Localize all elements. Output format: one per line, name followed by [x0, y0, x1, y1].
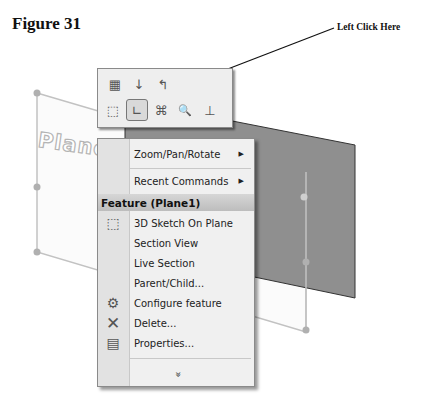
submenu-arrow-icon: ▶: [239, 177, 244, 185]
3d-sketch-icon: ⬚: [103, 213, 123, 233]
sketch-icon: ∟: [132, 103, 143, 118]
menu-item-label: Section View: [134, 238, 198, 249]
menu-item-label: Zoom/Pan/Rotate: [134, 149, 220, 160]
menu-item-section-view[interactable]: Section View: [98, 232, 254, 254]
submenu-arrow-icon: ▶: [239, 150, 244, 158]
menu-item-recent-commands[interactable]: Recent Commands ▶: [98, 170, 254, 192]
expand-menu-chevron-icon[interactable]: »: [173, 369, 184, 381]
menu-item-live-section[interactable]: Live Section: [98, 252, 254, 274]
select-other-icon[interactable]: ⬚: [104, 101, 122, 119]
normal-to-icon[interactable]: ⌘: [152, 101, 170, 119]
rollback-icon[interactable]: ↓: [130, 75, 148, 93]
menu-item-parent-child[interactable]: Parent/Child...: [98, 272, 254, 294]
sketch-button[interactable]: ∟: [126, 99, 148, 121]
menu-item-configure-feature[interactable]: ⚙ Configure feature: [98, 292, 254, 314]
context-toolbar: ▦ ↓ ↰ ⬚ ∟ ⌘ 🔍 ⊥: [97, 68, 233, 128]
menu-item-3d-sketch-on-plane[interactable]: ⬚ 3D Sketch On Plane: [98, 212, 254, 234]
menu-item-properties[interactable]: ▤ Properties...: [98, 332, 254, 354]
configure-icon: ⚙: [103, 293, 123, 313]
menu-item-zoom-pan-rotate[interactable]: Zoom/Pan/Rotate ▶: [98, 143, 254, 165]
context-menu: Zoom/Pan/Rotate ▶ Recent Commands ▶ Feat…: [97, 138, 255, 387]
menu-item-label: Properties...: [134, 338, 194, 349]
menu-section-header: Feature (Plane1): [98, 194, 254, 211]
menu-item-label: Live Section: [134, 258, 195, 269]
delete-icon: ✕: [103, 313, 123, 333]
properties-icon: ▤: [103, 333, 123, 353]
undo-icon[interactable]: ↰: [154, 75, 172, 93]
normal-axis-icon[interactable]: ⊥: [201, 101, 219, 119]
menu-item-label: Configure feature: [134, 298, 222, 309]
menu-separator: [129, 358, 251, 359]
menu-separator: [129, 168, 251, 169]
menu-item-label: Delete...: [134, 318, 176, 329]
zoom-to-selection-icon[interactable]: 🔍: [176, 101, 194, 119]
menu-item-label: Parent/Child...: [134, 278, 204, 289]
edit-feature-icon[interactable]: ▦: [106, 75, 124, 93]
menu-item-delete[interactable]: ✕ Delete...: [98, 312, 254, 334]
menu-item-label: 3D Sketch On Plane: [134, 218, 233, 229]
menu-item-label: Recent Commands: [134, 176, 228, 187]
